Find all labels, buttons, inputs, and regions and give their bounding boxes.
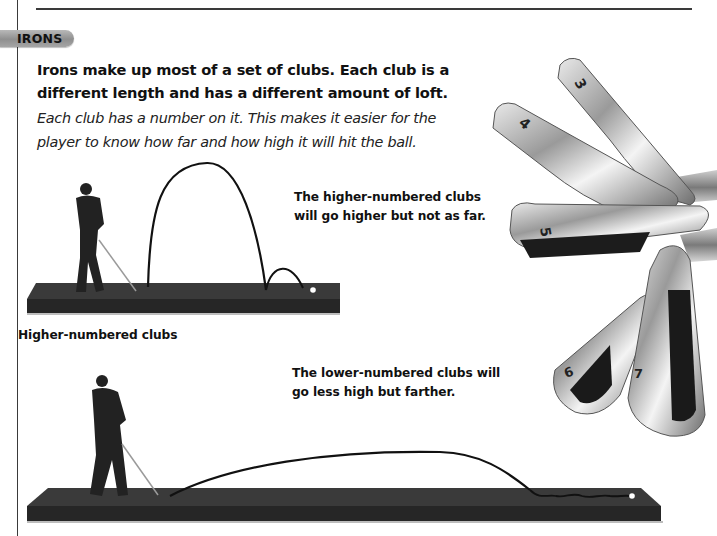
high-shot-scene	[27, 163, 340, 314]
illustration-layer: 3 4 5 6 7	[0, 0, 717, 536]
high-shot-caption: The higher-numbered clubs will go higher…	[294, 188, 504, 226]
low-shot-caption: The lower-numbered clubs will go less hi…	[292, 364, 502, 402]
golfer-figure	[90, 375, 158, 496]
high-shot-label: Higher-numbered clubs	[18, 326, 218, 345]
high-trajectory	[148, 163, 266, 290]
platform-top	[27, 283, 340, 299]
club-number: 7	[634, 366, 643, 381]
platform-front	[27, 299, 340, 314]
golf-ball	[629, 493, 635, 499]
golfer-figure	[76, 183, 136, 292]
golf-ball	[310, 287, 316, 293]
platform-front	[27, 506, 661, 522]
iron-clubs-photo: 3 4 5 6 7	[493, 58, 717, 436]
